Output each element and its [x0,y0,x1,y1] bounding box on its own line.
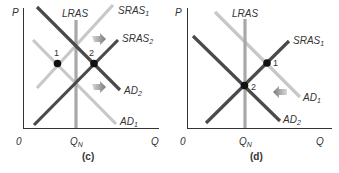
x-axis-label: Q [316,136,324,147]
sras2-label: SRAS2 [122,33,153,45]
panel-c: 1 2 P LRAS SRAS1 SRAS2 AD2 AD1 0 QN Q (c… [12,5,159,162]
qn-label: QN [70,136,84,148]
ad-shift-left-arrow [273,86,287,98]
ad2-label: AD2 [282,114,301,126]
point-1-label: 1 [273,58,278,68]
ad1-label: AD1 [119,116,138,128]
point-1-label: 1 [54,48,59,58]
point-2-label: 2 [251,82,256,92]
sras1-label: SRAS1 [293,35,324,47]
ad2-curve [193,36,280,121]
qn-label: QN [239,136,253,148]
origin-label: 0 [16,136,22,147]
ad2-label: AD2 [123,85,142,97]
sras1-label: SRAS1 [118,5,149,17]
panel-caption: (d) [250,151,263,162]
lras-label: LRAS [62,8,88,19]
panel-d: 1 2 P LRAS SRAS1 AD1 AD2 0 QN Q (d) [175,7,332,162]
origin-label: 0 [180,136,186,147]
point-2-label: 2 [89,48,94,58]
ad1-label: AD1 [302,92,321,104]
y-axis-label: P [12,7,19,18]
equilibrium-point-1 [263,59,271,67]
equilibrium-point-2 [241,82,249,90]
ad1-curve [215,12,300,97]
panel-caption: (c) [82,151,94,162]
y-axis-label: P [175,7,182,18]
equilibrium-point-1 [54,60,62,68]
sras-shift-right-arrow [92,33,106,45]
ad-shift-right-arrow [92,81,106,93]
sras1-curve [206,41,289,123]
lras-label: LRAS [232,8,258,19]
equilibrium-point-2 [90,60,98,68]
x-axis-label: Q [151,136,159,147]
